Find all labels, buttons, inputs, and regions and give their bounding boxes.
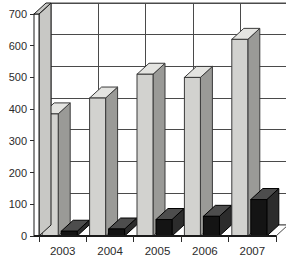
x-category-label-2005: 2005 <box>145 245 171 257</box>
y-tick-label: 100 <box>9 198 27 210</box>
y-axis-depth-face <box>39 3 51 236</box>
y-tick-labels: 0100200300400500600700 <box>9 8 34 242</box>
bar-2005-series1-front <box>137 74 153 236</box>
bar-chart: 0100200300400500600700200320042005200620… <box>0 0 286 264</box>
bar-2006-series1-front <box>184 77 200 236</box>
y-tick-label: 400 <box>9 103 27 115</box>
y-tick-label: 0 <box>21 230 27 242</box>
bar-2003-series2-front <box>61 231 77 236</box>
bar-2005-series1-side <box>153 63 165 236</box>
bar-2007-series1-front <box>232 39 248 236</box>
y-tick-label: 200 <box>9 167 27 179</box>
bar-2006-series2-front <box>203 216 219 236</box>
bar-2004-series1 <box>90 87 118 236</box>
y-tick-label: 700 <box>9 8 27 20</box>
x-category-label-2006: 2006 <box>192 245 218 257</box>
chart-canvas: 0100200300400500600700200320042005200620… <box>0 0 286 264</box>
bar-2004-series1-side <box>106 87 118 236</box>
bar-2007-series2-front <box>251 200 267 236</box>
bar-2006-series1 <box>184 66 212 236</box>
y-tick-label: 300 <box>9 135 27 147</box>
y-tick-label: 500 <box>9 71 27 83</box>
y-axis <box>34 3 51 236</box>
bar-2005-series2-front <box>156 220 172 236</box>
bar-2005-series1 <box>137 63 165 236</box>
y-tick-label: 600 <box>9 40 27 52</box>
bar-2004-series1-front <box>90 98 106 236</box>
bar-2007-series2 <box>251 189 279 236</box>
x-category-label-2003: 2003 <box>50 245 76 257</box>
x-category-label-2004: 2004 <box>97 245 123 257</box>
bar-2003-series1-side <box>58 103 70 236</box>
x-category-label-2007: 2007 <box>240 245 266 257</box>
bar-2004-series2-front <box>109 229 125 236</box>
y-axis-front-face <box>34 14 39 236</box>
x-tick-labels: 20032004200520062007 <box>39 236 276 257</box>
